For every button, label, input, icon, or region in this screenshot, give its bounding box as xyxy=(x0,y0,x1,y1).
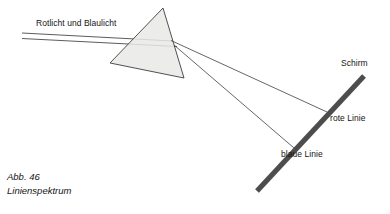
label-red-line: rote Linie xyxy=(330,114,365,124)
refracted-rays xyxy=(171,41,327,149)
caption-number: Abb. 46 xyxy=(7,170,71,184)
label-screen: Schirm xyxy=(341,59,368,69)
prism-triangle xyxy=(110,8,184,78)
label-incident-beam: Rotlicht und Blaulicht xyxy=(36,19,116,29)
ray-red xyxy=(171,41,327,113)
ray-blue xyxy=(174,45,294,148)
caption-title: Linienspektrum xyxy=(7,184,71,198)
label-blue-line: blaue Linie xyxy=(281,150,323,160)
figure-linienspektrum: Rotlicht und Blaulicht Schirm rote Linie… xyxy=(0,0,390,214)
figure-caption: Abb. 46 Linienspektrum xyxy=(7,170,71,198)
screen-bar xyxy=(257,76,364,191)
